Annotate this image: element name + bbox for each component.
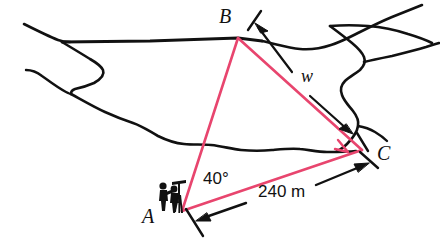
known-side-label-240m: 240 m [258, 183, 305, 200]
shoreline-right-finger [364, 43, 439, 62]
vertex-label-a: A [142, 206, 154, 226]
figure-root: B C A w 40° 240 m [0, 0, 440, 245]
shoreline-icon [24, 5, 439, 152]
dimension-arrowhead-right [354, 163, 369, 172]
leader-line-to-C [310, 96, 348, 130]
surveyor-2-head [171, 186, 178, 193]
surveyor-1-head [159, 182, 166, 189]
shoreline-upper-left-spur [24, 24, 70, 42]
shoreline-right-inlet [262, 5, 422, 49]
arrowhead-to-B [255, 23, 268, 33]
dimension-arrowhead-left [196, 213, 211, 221]
angle-label-40-degrees: 40° [203, 170, 229, 187]
tripod-leg-center [178, 195, 180, 213]
shoreline-top-bank [62, 38, 262, 42]
vertex-label-b: B [219, 6, 231, 26]
shoreline-left-lower-spur [26, 70, 71, 94]
vertex-label-c: C [377, 143, 390, 163]
shoreline-left-notch [62, 42, 104, 94]
surveyor-figures-icon [159, 180, 186, 213]
leader-line-to-B [258, 27, 292, 72]
theodolite-icon [178, 183, 180, 196]
shoreline-bottom-bank [71, 94, 356, 152]
dimension-line-left [203, 203, 246, 218]
tick-mark-A [186, 209, 203, 236]
dimension-line-right [316, 166, 362, 185]
triangle-side-BC [238, 38, 362, 150]
diagram-canvas [0, 0, 440, 245]
shoreline-right-small-hook [358, 126, 387, 141]
unknown-side-label-w: w [301, 67, 313, 85]
